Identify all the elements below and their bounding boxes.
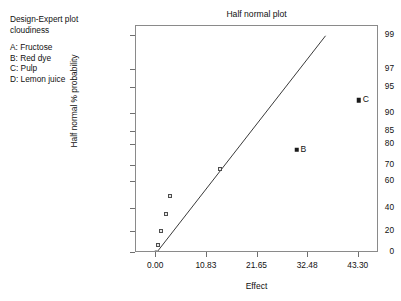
y-tick-label: 0: [389, 246, 394, 256]
data-point-C[interactable]: [357, 98, 362, 103]
x-tick-mark: [206, 252, 207, 257]
y-tick-label: 97: [385, 63, 394, 73]
data-point-label-B: B: [301, 144, 307, 154]
y-tick-label: 70: [385, 159, 394, 169]
x-tick-mark: [358, 252, 359, 257]
design-expert-annotation-block: Design-Expert plot cloudiness A: Fructos…: [10, 14, 120, 85]
data-point-5[interactable]: [218, 167, 222, 171]
y-tick-label: 85: [385, 125, 394, 135]
reference-line: [136, 26, 378, 252]
annotation-header-line1: Design-Expert plot: [10, 14, 120, 25]
x-tick-label: 32.48: [297, 260, 318, 270]
x-tick-label: 21.65: [246, 260, 267, 270]
y-tick-label: 99: [385, 29, 394, 39]
x-tick-label: 43.30: [347, 260, 368, 270]
x-tick-mark: [307, 252, 308, 257]
y-tick-label: 20: [385, 225, 394, 235]
data-point-1[interactable]: [156, 243, 160, 247]
y-tick-label: 60: [385, 175, 394, 185]
chart-title: Half normal plot: [135, 9, 378, 19]
y-tick-label: 95: [385, 81, 394, 91]
x-axis-label: Effect: [135, 281, 378, 291]
annotation-header-line2: cloudiness: [10, 25, 120, 36]
data-point-4[interactable]: [168, 194, 172, 198]
annotation-header: Design-Expert plot cloudiness: [10, 14, 120, 35]
data-point-2[interactable]: [159, 229, 163, 233]
x-tick-label: 0.00: [147, 260, 163, 270]
data-point-B[interactable]: [294, 147, 299, 152]
y-tick-label: 80: [385, 138, 394, 148]
plot-area: [135, 25, 378, 252]
y-tick-label: 90: [385, 107, 394, 117]
factor-c: C: Pulp: [10, 63, 120, 74]
y-tick-label: 40: [385, 202, 394, 212]
data-point-3[interactable]: [164, 212, 168, 216]
data-point-label-C: C: [363, 94, 369, 104]
factor-a: A: Fructose: [10, 42, 120, 53]
y-tick-mark: [130, 252, 135, 253]
x-tick-mark: [155, 252, 156, 257]
factor-d: D: Lemon juice: [10, 74, 120, 85]
y-axis-label: Half normal % probability: [69, 21, 79, 181]
x-tick-label: 10.83: [195, 260, 216, 270]
x-tick-mark: [257, 252, 258, 257]
factor-b: B: Red dye: [10, 53, 120, 64]
data-point-0[interactable]: [154, 251, 159, 253]
half-normal-plot-figure: Design-Expert plot cloudiness A: Fructos…: [0, 0, 401, 301]
